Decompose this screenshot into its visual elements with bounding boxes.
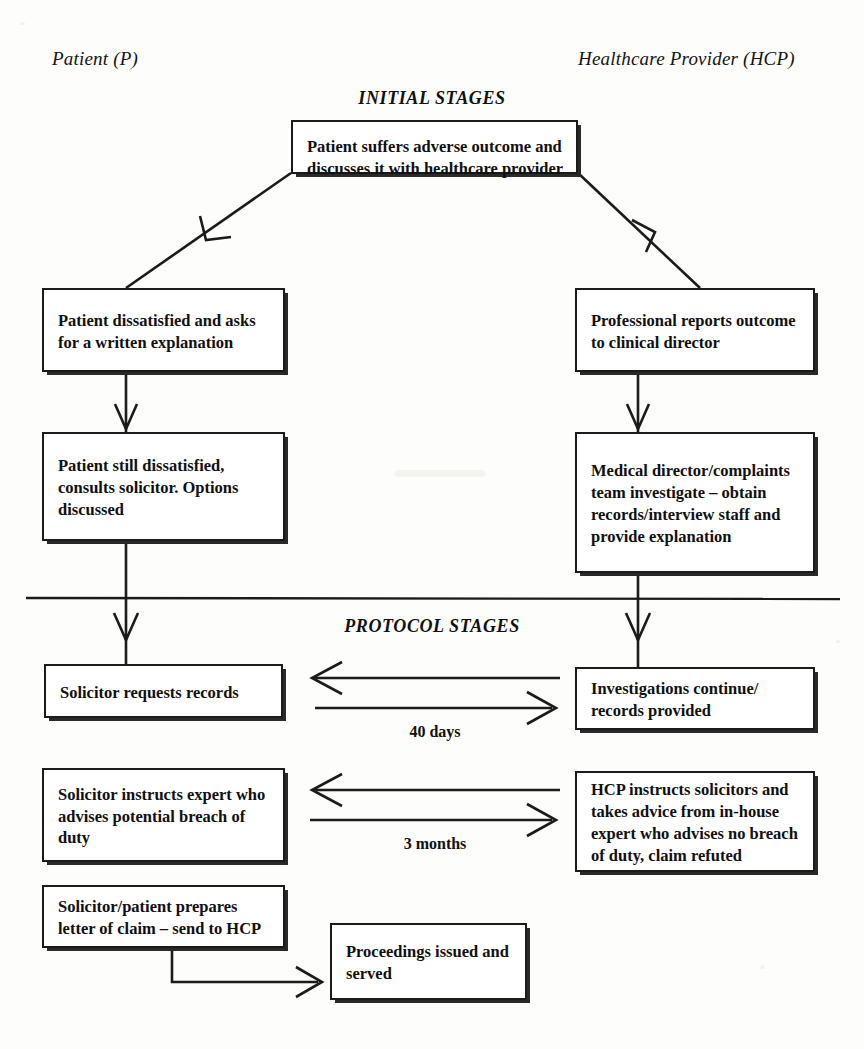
node-right-investigations-continue[interactable]: Investigations continue/ records provide… — [575, 667, 815, 730]
paper-speck — [760, 965, 765, 969]
node-right-hcp-instructs-solicitors-label: HCP instructs solicitors and takes advic… — [591, 779, 801, 867]
node-right-reports-outcome-label: Professional reports outcome to clinical… — [591, 310, 801, 354]
node-left-requests-records-label: Solicitor requests records — [60, 682, 239, 704]
node-right-investigations-continue-label: Investigations continue/ records provide… — [591, 678, 801, 722]
arrowhead-top-to-right1 — [632, 220, 655, 252]
edge-left5-to-bottom — [172, 948, 318, 982]
arrowhead-left3-to-right3 — [527, 692, 556, 724]
edge-label-3-months: 3 months — [315, 835, 555, 853]
arrowhead-left1-to-left2 — [115, 404, 137, 429]
node-left-consults-solicitor-label: Patient still dissatisfied, consults sol… — [58, 455, 271, 521]
lane-header-patient: Patient (P) — [52, 48, 138, 70]
section-title-protocol-stages: PROTOCOL STAGES — [0, 616, 864, 637]
arrowhead-left4-to-right4 — [527, 804, 556, 836]
arrowhead-right1-to-right2 — [627, 404, 649, 429]
node-top-label: Patient suffers adverse outcome and disc… — [307, 136, 564, 180]
node-right-reports-outcome[interactable]: Professional reports outcome to clinical… — [575, 288, 815, 372]
node-top[interactable]: Patient suffers adverse outcome and disc… — [291, 120, 578, 174]
node-proceedings-issued[interactable]: Proceedings issued and served — [330, 923, 527, 1000]
node-proceedings-issued-label: Proceedings issued and served — [346, 941, 513, 985]
node-left-dissatisfied[interactable]: Patient dissatisfied and asks for a writ… — [42, 288, 285, 372]
node-left-letter-of-claim-label: Solicitor/patient prepares letter of cla… — [58, 896, 271, 940]
node-left-instructs-expert[interactable]: Solicitor instructs expert who advises p… — [42, 768, 285, 862]
lane-header-healthcare-provider: Healthcare Provider (HCP) — [578, 48, 795, 70]
node-left-dissatisfied-label: Patient dissatisfied and asks for a writ… — [58, 310, 271, 354]
node-left-instructs-expert-label: Solicitor instructs expert who advises p… — [58, 784, 271, 850]
node-left-requests-records[interactable]: Solicitor requests records — [44, 664, 283, 718]
edge-top-to-left1 — [126, 173, 291, 288]
node-left-consults-solicitor[interactable]: Patient still dissatisfied, consults sol… — [42, 432, 285, 541]
node-left-letter-of-claim[interactable]: Solicitor/patient prepares letter of cla… — [42, 885, 285, 948]
phase-divider-line — [26, 598, 840, 599]
paper-speck — [20, 22, 25, 25]
edge-top-to-right1 — [578, 173, 700, 288]
arrowhead-right4-to-left4 — [312, 774, 342, 806]
paper-speck — [395, 470, 485, 477]
node-right-medical-director-label: Medical director/complaints team investi… — [591, 460, 801, 548]
flowchart-page: Patient (P) Healthcare Provider (HCP) IN… — [0, 0, 864, 1049]
edge-label-40-days: 40 days — [315, 723, 555, 741]
node-right-medical-director[interactable]: Medical director/complaints team investi… — [575, 432, 815, 573]
paper-speck — [836, 640, 840, 643]
arrowhead-right3-to-left3 — [312, 662, 342, 694]
section-title-initial-stages: INITIAL STAGES — [0, 88, 864, 109]
node-right-hcp-instructs-solicitors[interactable]: HCP instructs solicitors and takes advic… — [575, 771, 815, 872]
arrowhead-left5-to-bottom — [296, 967, 322, 997]
arrowhead-top-to-left1 — [200, 216, 231, 240]
